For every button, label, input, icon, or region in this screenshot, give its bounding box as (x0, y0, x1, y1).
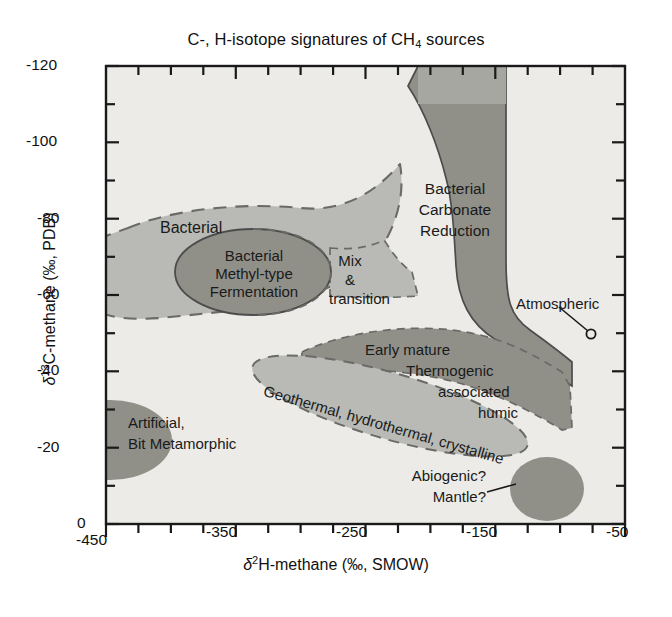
label-artificial-line2: Bit Metamorphic (128, 436, 236, 453)
label-bacterial: Bacterial (160, 219, 222, 237)
x-tick-label-minus-450: -450 (76, 531, 107, 549)
label-bmf-line3: Fermentation (186, 284, 322, 301)
label-mix-line1: Mix (326, 253, 374, 270)
label-bmf-line2: Methyl-type (186, 266, 322, 283)
x-tick-label-minus-50: -50 (606, 523, 628, 541)
label-abiogenic-line1: Abiogenic? (368, 468, 486, 485)
x-axis-title-superscript: 2 (252, 554, 258, 566)
label-bcr-line1: Bacterial (400, 180, 510, 197)
label-associated: associated (438, 384, 510, 401)
label-bmf-line1: Bacterial (186, 248, 322, 265)
x-axis-title-delta: δ (243, 556, 252, 573)
label-bcr-line3: Reduction (400, 222, 510, 239)
y-axis-title-rest: C-methane (‰, PDB) (41, 212, 58, 364)
x-tick-label-minus-150: -150 (466, 523, 497, 541)
label-mix-line2: & (326, 272, 374, 289)
label-artificial-line1: Artificial, (128, 415, 185, 432)
label-thermogenic: Thermogenic (406, 363, 494, 380)
isotope-signature-figure: C-, H-isotope signatures of CH4 sources (0, 0, 672, 617)
x-axis-title: δ2H-methane (‰, SMOW) (0, 556, 672, 574)
region-abiogenic-mantle (510, 457, 584, 521)
label-early-mature: Early mature (365, 342, 450, 359)
atmospheric-marker-icon (586, 329, 595, 338)
label-abiogenic-line2: Mantle? (368, 489, 486, 506)
label-atmospheric: Atmospheric (516, 296, 599, 313)
y-tick-label-0: 0 (77, 514, 86, 532)
x-axis-title-rest: H-methane (‰, SMOW) (258, 556, 429, 573)
x-tick-label-minus-350: -350 (206, 523, 237, 541)
label-humic: humic (478, 405, 518, 422)
label-bcr-line2: Carbonate (400, 201, 510, 218)
x-tick-label-minus-250: -250 (336, 523, 367, 541)
label-mix-line3: transition (329, 291, 390, 308)
y-axis-title: δ13C-methane (‰, PDB) (41, 59, 59, 539)
y-axis-title-delta: δ (41, 377, 58, 386)
y-axis-title-superscript: 13 (39, 364, 51, 376)
